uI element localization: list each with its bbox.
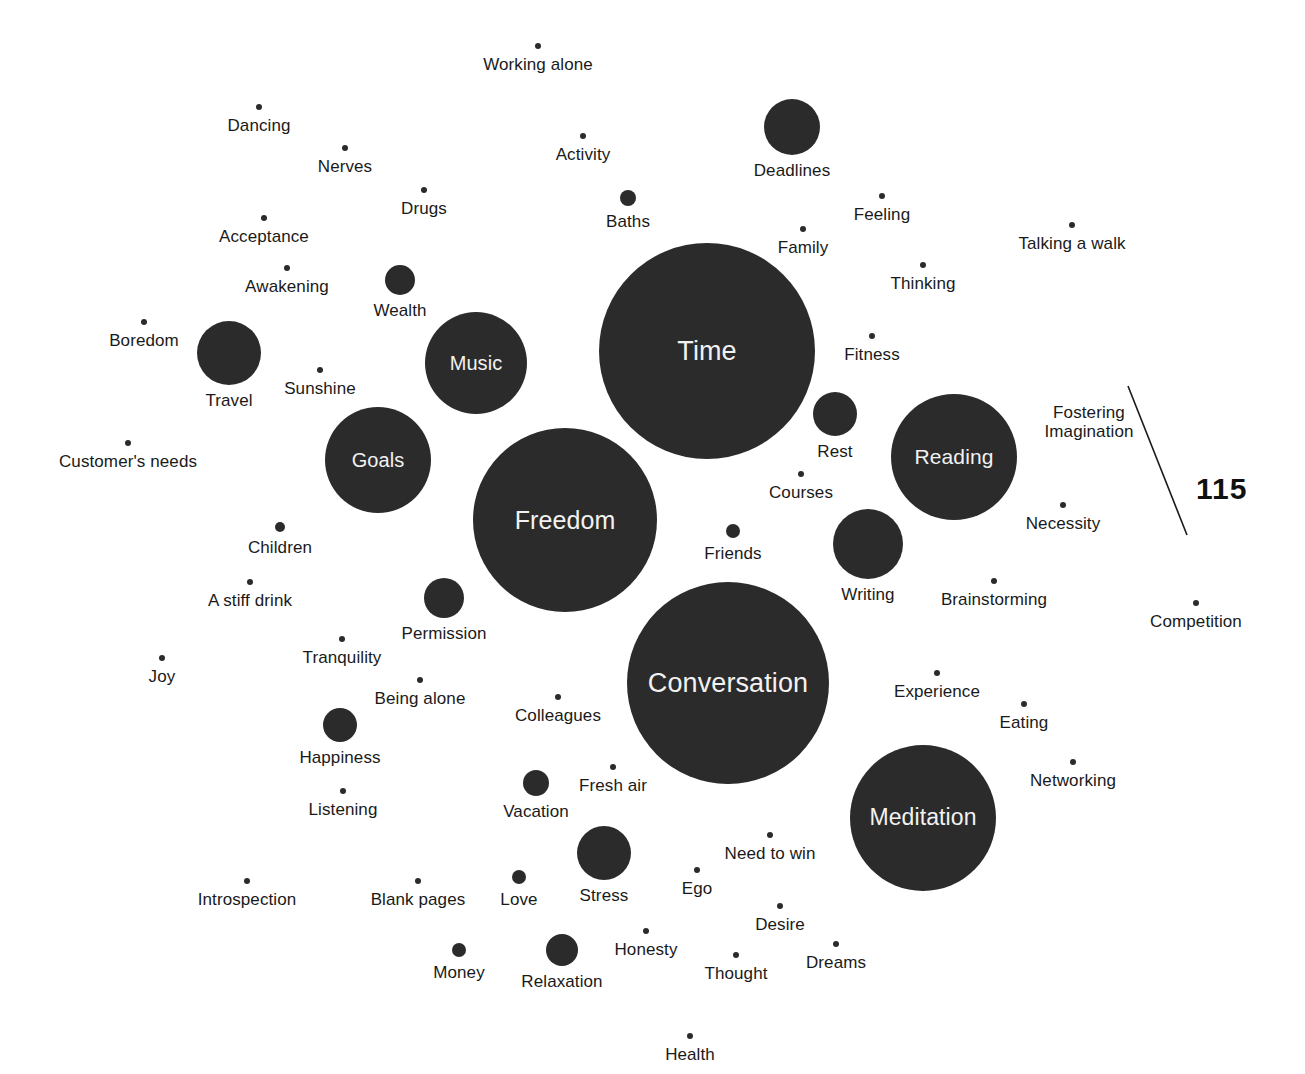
bubble-circle[interactable]	[1060, 502, 1066, 508]
bubble-label: Conversation	[648, 668, 808, 698]
bubble-circle[interactable]	[764, 99, 820, 155]
bubble-label: Rest	[817, 442, 852, 461]
bubble-circle[interactable]	[1070, 759, 1076, 765]
bubble-label: Introspection	[198, 890, 297, 909]
bubble-circle[interactable]	[415, 878, 421, 884]
bubble-circle[interactable]	[417, 677, 423, 683]
bubble-circle[interactable]	[159, 655, 165, 661]
bubble-label: Wealth	[373, 301, 426, 320]
bubble-circle[interactable]	[535, 43, 541, 49]
bubble-label: Travel	[205, 391, 252, 410]
bubble-circle[interactable]	[620, 190, 636, 206]
bubble-circle[interactable]	[340, 788, 346, 794]
bubble-circle[interactable]	[523, 770, 549, 796]
bubble-label: Desire	[755, 915, 805, 934]
bubble-circle[interactable]	[546, 934, 578, 966]
bubble-label: Networking	[1030, 771, 1116, 790]
bubble-label: Courses	[769, 483, 833, 502]
bubble-circle[interactable]	[934, 670, 940, 676]
bubble-label: Tranquility	[303, 648, 382, 667]
bubble-circle[interactable]	[141, 319, 147, 325]
bubble-label: Meditation	[869, 805, 976, 831]
bubble-circle[interactable]	[317, 367, 323, 373]
bubble-circle[interactable]	[813, 392, 857, 436]
bubble-circle[interactable]	[767, 832, 773, 838]
bubble-circle[interactable]	[247, 579, 253, 585]
bubble-circle[interactable]	[694, 867, 700, 873]
bubble-circle[interactable]	[726, 524, 740, 538]
bubble-label: Feeling	[854, 205, 910, 224]
bubble-circle[interactable]	[125, 440, 131, 446]
bubble-label: Fresh air	[579, 776, 647, 795]
bubble-circle[interactable]	[798, 471, 804, 477]
bubble-circle[interactable]	[424, 578, 464, 618]
bubble-label: Ego	[682, 879, 713, 898]
page-number: 115	[1196, 472, 1247, 506]
bubble-circle[interactable]	[1021, 701, 1027, 707]
bubble-circle[interactable]	[385, 265, 415, 295]
bubble-label: Thinking	[890, 274, 955, 293]
bubble-circle[interactable]	[833, 941, 839, 947]
bubble-label: Vacation	[503, 802, 569, 821]
bubble-circle[interactable]	[1069, 222, 1075, 228]
bubble-label: Competition	[1150, 612, 1242, 631]
bubble-label: A stiff drink	[208, 591, 292, 610]
bubble-circle[interactable]	[512, 870, 526, 884]
bubble-circle[interactable]	[421, 187, 427, 193]
bubble-label: Listening	[309, 800, 378, 819]
bubble-circle[interactable]	[244, 878, 250, 884]
bubble-label: Being alone	[375, 689, 466, 708]
bubble-label: Activity	[556, 145, 611, 164]
bubble-circle[interactable]	[833, 509, 903, 579]
bubble-label: Fitness	[844, 345, 900, 364]
bubble-circle[interactable]	[342, 145, 348, 151]
bubble-label: Thought	[704, 964, 767, 983]
bubble-label: Health	[665, 1045, 715, 1064]
bubble-circle[interactable]	[991, 578, 997, 584]
bubble-circle[interactable]	[1193, 600, 1199, 606]
bubble-label: Awakening	[245, 277, 329, 296]
bubble-label: Nerves	[318, 157, 372, 176]
bubble-label: Writing	[841, 585, 894, 604]
bubble-circle[interactable]	[610, 764, 616, 770]
bubble-circle[interactable]	[284, 265, 290, 271]
bubble-label: Happiness	[299, 748, 380, 767]
bubble-label: Relaxation	[521, 972, 602, 991]
bubble-label: Friends	[704, 544, 761, 563]
bubble-label: Brainstorming	[941, 590, 1047, 609]
bubble-circle[interactable]	[800, 226, 806, 232]
bubble-label: Love	[500, 890, 537, 909]
bubble-label: Need to win	[725, 844, 816, 863]
bubble-circle[interactable]	[869, 333, 875, 339]
bubble-label: Drugs	[401, 199, 447, 218]
bubble-label: Goals	[352, 449, 405, 471]
bubble-circle[interactable]	[339, 636, 345, 642]
bubble-label: Acceptance	[219, 227, 309, 246]
bubble-circle[interactable]	[577, 826, 631, 880]
bubble-label: Honesty	[614, 940, 677, 959]
bubble-circle[interactable]	[323, 708, 357, 742]
bubble-circle[interactable]	[643, 928, 649, 934]
bubble-label: Reading	[915, 445, 994, 469]
bubble-circle[interactable]	[687, 1033, 693, 1039]
bubble-label: Family	[778, 238, 829, 257]
bubble-label: Eating	[1000, 713, 1049, 732]
bubble-circle[interactable]	[197, 321, 261, 385]
bubble-circle[interactable]	[920, 262, 926, 268]
bubble-circle[interactable]	[777, 903, 783, 909]
bubble-circle[interactable]	[555, 694, 561, 700]
bubble-label: Customer's needs	[59, 452, 197, 471]
bubble-chart-canvas: Working aloneDancingNervesActivityDeadli…	[0, 0, 1305, 1074]
bubble-label: Music	[450, 352, 503, 374]
bubble-circle[interactable]	[879, 193, 885, 199]
bubble-circle[interactable]	[452, 943, 466, 957]
bubble-label: Blank pages	[371, 890, 466, 909]
bubble-label: Talking a walk	[1018, 234, 1125, 253]
bubble-circle[interactable]	[580, 133, 586, 139]
bubble-circle[interactable]	[733, 952, 739, 958]
bubble-label: Sunshine	[284, 379, 356, 398]
bubble-circle[interactable]	[256, 104, 262, 110]
bubble-label: Deadlines	[754, 161, 831, 180]
bubble-circle[interactable]	[275, 522, 285, 532]
bubble-circle[interactable]	[261, 215, 267, 221]
